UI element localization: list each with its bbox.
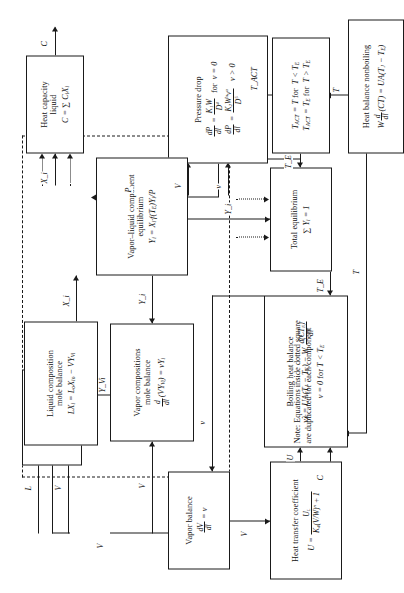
arrowhead-xi-hc (52, 153, 58, 158)
box-heat-transfer-coefficient[interactable]: Heat transfer coefficient U = ULK4(V/W)n… (270, 461, 342, 579)
connector-vsmall-pressure (228, 163, 229, 195)
arrowhead-te-sel (297, 162, 303, 167)
edge-label-yi-down: Y_i (224, 202, 233, 215)
dotted-yi-a (236, 236, 266, 237)
connector-yi-down (188, 218, 270, 219)
box-equation: Wddl(CT) = UA(TJ − TE) (374, 44, 390, 128)
edge-label-t-into-selector: T (352, 269, 361, 275)
edge-label-yvi: Y_Vi (98, 376, 107, 393)
arrowhead-yi-dotted-a (264, 234, 269, 240)
arrowhead-xi-dotted-b (67, 153, 73, 158)
connector-yi-vcm (152, 275, 153, 323)
diagram-note: Note: Equations inside dotted square are… (292, 193, 315, 443)
edge-label-te: T_E (284, 154, 293, 169)
box-vapor-balance[interactable]: Vapor balance dVdl = v (168, 471, 230, 569)
edge-label-v-htc: V (240, 530, 249, 537)
box-temperature-selector[interactable]: TACT = T for T < TE TACT = TE for T > TE (272, 37, 330, 153)
connector-v-small-riser (212, 295, 264, 296)
box-title: Heat capacity liquid (40, 81, 59, 128)
connector-v-to-vaporcomp (152, 441, 153, 533)
connector-v-small (212, 295, 213, 471)
arrowhead-u (297, 447, 303, 452)
box-title: Vapor compositions mole balance (133, 348, 152, 416)
arrowhead-c-boiling (327, 447, 333, 452)
edge-label-xi-vle: X_i (62, 294, 71, 307)
edge-label-yi-vcm: Y_i (138, 292, 147, 305)
box-equation: U = ULK4(V/W)n + 1 (303, 490, 321, 551)
box-equation: C = ∑ CiXi (61, 86, 70, 123)
box-liquid-composition-mole-balance-main[interactable]: Liquid composition mole balance LXi = Lo… (24, 321, 98, 445)
edge-label-tact: T_ACT (250, 66, 259, 91)
connector-v-to-liquidbal (52, 532, 70, 533)
dotted-yi-b (236, 198, 266, 199)
box-heat-balance-nonboiling[interactable]: Heat balance nonboiling Wddl(CT) = UA(TJ… (348, 19, 404, 153)
box-heat-capacity-liquid[interactable]: Heat capacity liquid C = ∑ CiXi (26, 55, 84, 153)
box-vapor-liquid-component-equilibrium[interactable]: Vapor–liquid component equilibrium Yi = … (96, 157, 188, 275)
box-equation: Yi = Xi·f(TE)Yi/P (148, 189, 157, 243)
box-equation-1: TACT = T for T < TE (291, 62, 300, 129)
box-vapor-compositions-mole-balance[interactable]: Vapor compositions mole balance ddl(VYVi… (110, 323, 194, 441)
connector-t-up (330, 94, 348, 95)
connector-v-down-htc (230, 520, 270, 521)
box-equation-2: TACT = TE for T > TE (302, 60, 311, 130)
edge-label-v-vaporcomp: V (138, 482, 147, 489)
box-equation-2: v = 0 for T < TE (316, 344, 325, 398)
connector-yvi (98, 394, 110, 395)
connector-v-pressure (188, 163, 189, 195)
edge-label-vsmall-pressure: v (214, 183, 223, 189)
box-equation: ddl(VYVi) = vYi (154, 357, 170, 406)
box-title: Heat balance nonboiling (362, 44, 371, 127)
arrowhead-c-out (52, 26, 58, 31)
arrowhead-yi-vcm (149, 318, 155, 323)
edge-label-te-total: T_E (316, 278, 325, 293)
edge-label-c-out: C (40, 40, 49, 47)
box-equation: LXi = LoXio − VYVi (67, 352, 76, 414)
edge-label-t-nonboiling: T (332, 87, 341, 93)
edge-label-v-pressure: V (174, 182, 183, 189)
box-equation-1: dPdl = K1WD4 for v = 0 (206, 61, 223, 137)
arrowhead-v-vaporcomp (149, 441, 155, 446)
box-equation-2: dPdl = K2WavaD5 v > 0 (224, 63, 242, 135)
arrowhead-xi-dotted-a (39, 153, 45, 158)
box-equation: dVdl = v (197, 507, 213, 533)
box-pressure-drop[interactable]: Pressure drop dPdl = K1WD4 for v = 0 dPd… (168, 35, 268, 163)
edge-label-v-small: v (198, 419, 207, 425)
edge-label-v-liquidcomp: V (54, 484, 63, 491)
edge-label-p: P (124, 186, 133, 193)
connector-v-up (110, 532, 168, 533)
edge-label-l: L (24, 485, 33, 491)
edge-label-u: U (286, 453, 295, 461)
box-title: Heat transfer coefficient (291, 479, 300, 562)
box-title: Pressure drop (194, 76, 203, 123)
arrowhead-v-small (209, 466, 215, 471)
connector-t-bottom-riser-l (348, 432, 366, 433)
connector-p-horizontal (218, 163, 219, 197)
arrowhead-yi-dotted-b (264, 196, 269, 202)
box-title: Liquid composition mole balance (46, 349, 65, 416)
edge-label-xi: X_i (40, 171, 49, 184)
arrowhead-te-boiling (327, 290, 333, 295)
edge-label-c-boiling: C (316, 474, 325, 481)
arrowhead-xi-vle (73, 275, 79, 280)
box-title: Vapor balance (185, 496, 194, 545)
dotted-xi-b (70, 157, 71, 185)
edge-label-v-long: V (96, 542, 105, 549)
connector-xi-vle (76, 275, 77, 321)
